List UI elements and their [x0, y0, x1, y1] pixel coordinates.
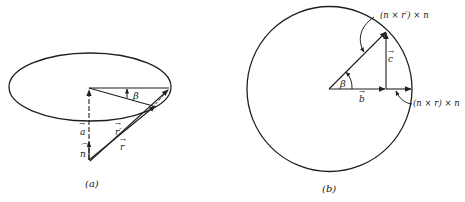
rotation-diagram: β a → n ⌒ r′ → r → (a) β c → b → (n × r′…: [0, 0, 465, 202]
vector-r-arrow-glyph: →: [120, 136, 126, 144]
right-label-leader: [396, 91, 412, 104]
vector-r-prime-arrow-glyph: →: [115, 120, 121, 128]
beta-label-b: β: [339, 78, 346, 89]
vector-a-arrow-glyph: →: [79, 120, 85, 128]
vector-c-arrow-glyph: →: [388, 48, 394, 56]
top-vector-label: (n × r′) × n: [380, 10, 429, 20]
unit-n-hat-glyph: ⌒: [80, 143, 88, 151]
panel-a: β a → n ⌒ r′ → r → (a): [9, 53, 171, 189]
vector-a-label: a: [80, 127, 85, 137]
vector-b-arrow-glyph: →: [359, 88, 365, 96]
vector-r-arrow: [90, 90, 168, 161]
panel-b: β c → b → (n × r′) × n (n × r) × n (b): [247, 7, 460, 195]
right-vector-label: (n × r) × n: [413, 98, 460, 108]
beta-label-a: β: [132, 90, 139, 101]
beta-arc: [346, 72, 352, 89]
rotated-radius-line: [89, 88, 153, 106]
vector-nr-prime-n-arrow: [329, 32, 386, 89]
caption-b: (b): [322, 183, 336, 194]
caption-a: (a): [85, 178, 99, 189]
rotation-ellipse: [9, 53, 171, 121]
